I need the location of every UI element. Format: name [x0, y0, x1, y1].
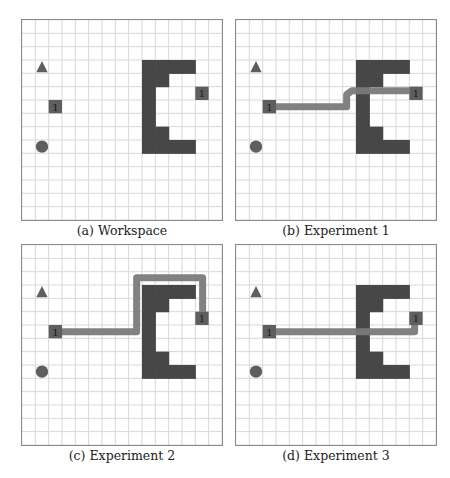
circle-marker-icon: [250, 140, 262, 152]
caption: (b) Experiment 1: [235, 223, 437, 238]
start-robot-square-label: 1: [52, 102, 58, 113]
grid-map: 11: [21, 244, 223, 446]
caption: (a) Workspace: [21, 223, 223, 238]
goal-robot-square-label: 1: [199, 88, 205, 99]
start-robot-square-label: 1: [266, 102, 272, 113]
map-background: [21, 19, 223, 221]
map-background: [235, 19, 437, 221]
start-robot-square-label: 1: [52, 327, 58, 338]
goal-robot-square-label: 1: [413, 88, 419, 99]
panel-workspace: 11 (a) Workspace: [21, 19, 223, 221]
panel-experiment-1: 11 (b) Experiment 1: [235, 19, 437, 221]
goal-robot-square-label: 1: [199, 313, 205, 324]
caption: (c) Experiment 2: [21, 448, 223, 463]
map-background: [235, 244, 437, 446]
grid-map: 11: [235, 244, 437, 446]
circle-marker-icon: [36, 365, 48, 377]
start-robot-square-label: 1: [266, 327, 272, 338]
grid-map: 11: [21, 19, 223, 221]
caption: (d) Experiment 3: [235, 448, 437, 463]
circle-marker-icon: [36, 140, 48, 152]
panel-experiment-2: 11 (c) Experiment 2: [21, 244, 223, 446]
panel-experiment-3: 11 (d) Experiment 3: [235, 244, 437, 446]
circle-marker-icon: [250, 365, 262, 377]
goal-robot-square-label: 1: [413, 313, 419, 324]
grid-map: 11: [235, 19, 437, 221]
